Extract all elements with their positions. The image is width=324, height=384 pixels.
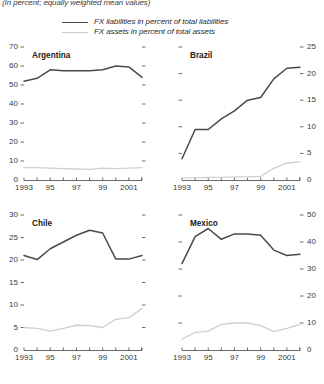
y-axis-label: 30 bbox=[0, 211, 18, 219]
x-axis-label: 97 bbox=[64, 354, 88, 362]
panel-chile: Chile05101520253019939597992001 bbox=[24, 215, 142, 366]
y-axis-label: 10 bbox=[0, 301, 18, 309]
plot-area-brazil bbox=[182, 47, 300, 181]
panel-argentina: Argentina01020304050607019939597992001 bbox=[24, 47, 142, 196]
x-axis-label: 1993 bbox=[12, 354, 36, 362]
y-axis-label: 20 bbox=[0, 138, 18, 146]
panel-mexico: Mexico0102030405019939597992001 bbox=[182, 215, 300, 366]
y-axis-label: 50 bbox=[307, 211, 324, 219]
y-axis-label: 20 bbox=[307, 70, 324, 78]
x-axis-label: 97 bbox=[222, 354, 246, 362]
y-axis-label: 20 bbox=[0, 256, 18, 264]
series-line-fx-assets-argentina bbox=[24, 168, 142, 170]
y-axis-label: 10 bbox=[307, 123, 324, 131]
y-axis-label: 25 bbox=[0, 234, 18, 242]
x-axis-label: 99 bbox=[91, 354, 115, 362]
series-line-fx-liabilities-argentina bbox=[24, 66, 142, 81]
x-axis-label: 2001 bbox=[117, 354, 141, 362]
x-axis-label: 2001 bbox=[275, 354, 299, 362]
y-axis-label: 40 bbox=[307, 238, 324, 246]
x-axis-label: 1993 bbox=[170, 184, 194, 192]
x-axis-label: 1993 bbox=[12, 184, 36, 192]
plot-area-mexico bbox=[182, 215, 300, 351]
x-axis-label: 97 bbox=[64, 184, 88, 192]
figure-subtitle: (In percent; equally weighted mean value… bbox=[2, 0, 150, 7]
y-axis-label: 15 bbox=[0, 279, 18, 287]
y-axis-label: 40 bbox=[0, 100, 18, 108]
y-axis-label: 70 bbox=[0, 43, 18, 51]
x-axis-label: 2001 bbox=[275, 184, 299, 192]
x-axis-label: 95 bbox=[196, 354, 220, 362]
legend-label-liabilities: FX liabilities in percent of total liabi… bbox=[94, 17, 228, 26]
y-axis-label: 10 bbox=[0, 157, 18, 165]
legend-label-assets: FX assets in percent of total assets bbox=[94, 27, 215, 36]
y-axis-label: 15 bbox=[307, 96, 324, 104]
y-axis-label: 0 bbox=[307, 346, 324, 354]
y-axis-label: 20 bbox=[307, 292, 324, 300]
y-axis-label: 30 bbox=[307, 265, 324, 273]
panel-title-mexico: Mexico bbox=[190, 219, 218, 228]
y-axis-label: 25 bbox=[307, 43, 324, 51]
y-axis-label: 5 bbox=[307, 149, 324, 157]
panel-brazil: Brazil051015202519939597992001 bbox=[182, 47, 300, 196]
series-line-fx-assets-mexico bbox=[182, 323, 300, 339]
y-axis-label: 60 bbox=[0, 62, 18, 70]
panel-title-brazil: Brazil bbox=[190, 51, 212, 60]
x-axis-label: 1993 bbox=[170, 354, 194, 362]
series-line-fx-liabilities-brazil bbox=[182, 67, 300, 159]
series-line-fx-assets-brazil bbox=[182, 162, 300, 178]
figure-root: (In percent; equally weighted mean value… bbox=[0, 0, 324, 384]
y-axis-label: 30 bbox=[0, 119, 18, 127]
plot-area-chile bbox=[24, 215, 142, 351]
plot-area-argentina bbox=[24, 47, 142, 181]
x-axis-label: 95 bbox=[38, 184, 62, 192]
series-line-fx-liabilities-mexico bbox=[182, 229, 300, 264]
legend-swatch-liabilities-icon bbox=[62, 22, 88, 23]
y-axis-label: 0 bbox=[307, 176, 324, 184]
y-axis-label: 5 bbox=[0, 324, 18, 332]
x-axis-label: 97 bbox=[222, 184, 246, 192]
x-axis-label: 99 bbox=[249, 354, 273, 362]
series-line-fx-assets-chile bbox=[24, 309, 142, 332]
x-axis-label: 99 bbox=[91, 184, 115, 192]
x-axis-label: 99 bbox=[249, 184, 273, 192]
legend: FX liabilities in percent of total liabi… bbox=[62, 17, 312, 39]
legend-swatch-assets-icon bbox=[62, 32, 88, 33]
panel-title-argentina: Argentina bbox=[32, 51, 70, 60]
series-line-fx-liabilities-chile bbox=[24, 230, 142, 259]
x-axis-label: 95 bbox=[38, 354, 62, 362]
x-axis-label: 2001 bbox=[117, 184, 141, 192]
x-axis-label: 95 bbox=[196, 184, 220, 192]
panel-title-chile: Chile bbox=[32, 219, 52, 228]
y-axis-label: 50 bbox=[0, 81, 18, 89]
y-axis-label: 10 bbox=[307, 319, 324, 327]
